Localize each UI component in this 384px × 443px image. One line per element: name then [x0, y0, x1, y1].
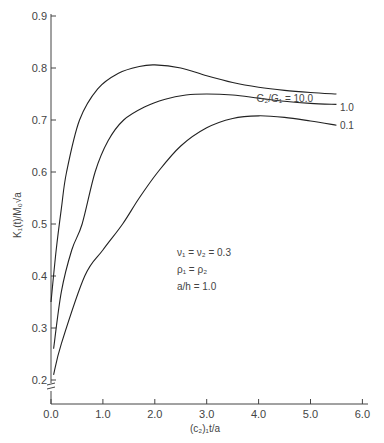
y-ticks: 0.20.30.40.50.60.70.80.9	[32, 10, 56, 386]
y-tick-label: 0.4	[32, 270, 47, 282]
y-tick-label: 0.7	[32, 114, 47, 126]
y-tick-label: 0.3	[32, 322, 47, 334]
curve-g-ratio-0-1	[54, 116, 337, 375]
series-label-1: 1.0	[340, 102, 354, 113]
curves	[51, 65, 336, 375]
axis-break-mark	[47, 383, 55, 385]
x-axis-title: (c₂)₁t/a	[190, 423, 220, 434]
x-tick-label: 4.0	[251, 408, 266, 420]
y-tick-label: 0.5	[32, 218, 47, 230]
x-ticks: 0.01.02.03.04.05.06.0	[43, 399, 370, 420]
x-tick-label: 5.0	[303, 408, 318, 420]
axes	[47, 14, 368, 404]
chart: 0.20.30.40.50.60.70.80.9 0.01.02.03.04.0…	[0, 0, 384, 443]
y-tick-label: 0.8	[32, 62, 47, 74]
annotation-poisson: ν₁ = ν₂ = 0.3	[177, 247, 231, 258]
y-tick-label: 0.2	[32, 374, 47, 386]
x-tick-label: 1.0	[95, 408, 110, 420]
x-tick-label: 3.0	[199, 408, 214, 420]
x-tick-label: 0.0	[43, 408, 58, 420]
y-axis-title: K₁(t)/M₀√a	[12, 192, 23, 238]
series-label-10: G₂/G₁ = 10.0	[257, 93, 314, 104]
x-tick-label: 6.0	[355, 408, 370, 420]
y-tick-label: 0.9	[32, 10, 47, 22]
annotation-ratio: a/h = 1.0	[177, 281, 217, 292]
annotation-density: ρ₁ = ρ₂	[177, 264, 207, 275]
series-label-01: 0.1	[340, 120, 354, 131]
curve-g-ratio-1-0	[54, 94, 337, 349]
y-tick-label: 0.6	[32, 166, 47, 178]
x-tick-label: 2.0	[147, 408, 162, 420]
axis-break-mark	[47, 387, 55, 389]
